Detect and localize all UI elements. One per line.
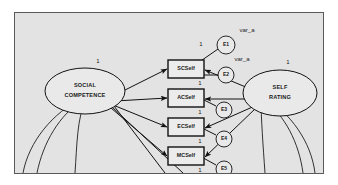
error-e2-label: E2 [223, 71, 229, 77]
screenshot-root: SOCIAL COMPETENCE 1 SELF RATING 1 SCSelf… [0, 0, 338, 185]
path-diagram-canvas: SOCIAL COMPETENCE 1 SELF RATING 1 SCSelf… [15, 13, 323, 173]
indicator-acself-label: ACSelf [177, 94, 195, 100]
diagram-frame: SOCIAL COMPETENCE 1 SELF RATING 1 SCSelf… [14, 12, 324, 174]
error-e5-label: E5 [221, 165, 227, 171]
latent-self-rating-label-line1: SELF [273, 84, 288, 90]
latent-social-competence-label-line1: SOCIAL [74, 82, 96, 88]
coefficient-social-competence: 1 [96, 58, 100, 64]
coefficient-acself: 1 [198, 109, 202, 115]
coefficient-scself: 1 [198, 80, 202, 86]
error-e4[interactable]: E4 [216, 131, 232, 147]
annotation-var-a-top: var_a [239, 27, 255, 33]
error-e3-label: E3 [221, 106, 227, 112]
error-e3[interactable]: E3 [216, 102, 232, 118]
latent-self-rating-label-line2: RATING [269, 94, 291, 100]
error-e1[interactable]: E1 [217, 36, 235, 54]
indicator-mcself-label: MCSelf [177, 152, 195, 158]
latent-self-rating[interactable]: SELF RATING [243, 70, 317, 116]
coefficient-mcself: 1 [198, 167, 202, 173]
indicator-acself[interactable]: ACSelf [168, 89, 204, 107]
error-e1-label: E1 [223, 41, 229, 47]
indicator-ecself-label: ECSelf [177, 123, 195, 129]
indicator-scself[interactable]: SCSelf [168, 60, 204, 78]
indicator-scself-label: SCSelf [177, 65, 195, 71]
coefficient-e1: 1 [199, 41, 203, 47]
error-e5[interactable]: E5 [216, 161, 232, 173]
annotation-var-a-second: var_a [234, 56, 250, 62]
indicator-mcself[interactable]: MCSelf [168, 147, 204, 165]
coefficient-self-rating: 1 [286, 59, 290, 65]
latent-social-competence[interactable]: SOCIAL COMPETENCE [45, 68, 125, 114]
error-e4-label: E4 [221, 135, 227, 141]
coefficient-ecself: 1 [198, 138, 202, 144]
error-e2[interactable]: E2 [218, 67, 234, 83]
latent-social-competence-label-line2: COMPETENCE [65, 92, 106, 98]
indicator-ecself[interactable]: ECSelf [168, 118, 204, 136]
